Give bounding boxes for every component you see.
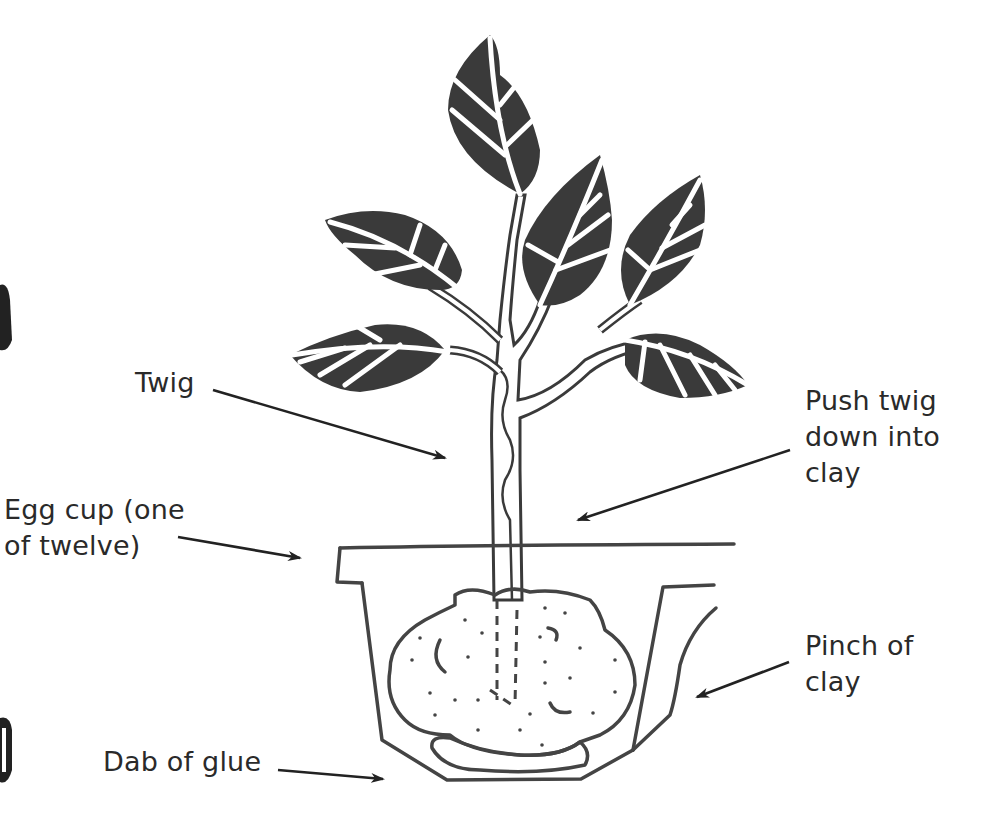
egg-cup xyxy=(337,544,734,780)
label-egg-cup: Egg cup (one of twelve) xyxy=(4,492,185,564)
push-arrow xyxy=(578,450,790,520)
clay-speckles xyxy=(410,606,617,747)
leaf-left-lower xyxy=(290,324,448,392)
label-pinch-of-clay: Pinch of clay xyxy=(805,628,913,700)
pinch-arrow xyxy=(697,662,789,697)
leaf-left-upper xyxy=(325,211,462,290)
label-dab-of-glue: Dab of glue xyxy=(103,744,261,780)
glue-arrow xyxy=(278,770,383,779)
leaf-middle xyxy=(522,155,612,306)
twig-arrow xyxy=(213,390,445,458)
leaf-top xyxy=(448,35,540,194)
leaf-right-upper xyxy=(621,175,705,305)
plant-illustration xyxy=(290,35,748,600)
clay-lump xyxy=(389,589,635,772)
label-twig: Twig xyxy=(135,365,195,401)
egg-cup-arrow xyxy=(178,537,300,558)
label-push-twig: Push twig down into clay xyxy=(805,383,940,491)
leaf-right-lower xyxy=(625,334,748,398)
